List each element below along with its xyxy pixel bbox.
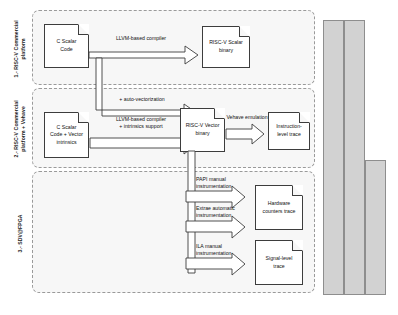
edge-label-extrae-automatic: Extrae automatic instrumentation <box>196 205 262 220</box>
document-corner-icon <box>299 112 310 123</box>
node-label: Hardware counters trace <box>261 200 298 215</box>
edge-label-ila-manual: ILA manual instrumentation <box>196 243 258 258</box>
document-corner-icon <box>78 112 89 123</box>
node-label: RISC-V Scalar binary <box>207 39 245 54</box>
edge-label-auto-vectorization: + auto-vectorization <box>96 96 188 103</box>
node-label: RISC-V Vector binary <box>184 122 222 137</box>
diagram-canvas: 1.- RISC-V Commercial platform 2.- RISC-… <box>0 0 398 315</box>
section-label-riscv-commercial-vehave: 2.- RISC-V Commercial platform + Vehave <box>13 96 27 162</box>
edge-label-llvm-intrinsics: LLVM-based compiler + intrinsics support <box>92 116 190 131</box>
node-c-scalar-code: C Scalar Code <box>44 24 89 68</box>
feedback-bar-hardware-architects: Feedback to hardware architects <box>365 160 386 295</box>
edge-label-vehave-emulation: Vehave emulation <box>222 114 272 121</box>
document-corner-icon <box>78 24 89 35</box>
node-instruction-level-trace: Instruction- level trace <box>268 112 310 150</box>
node-c-scalar-vector-code: C Scalar Code + Vector intrinsics <box>44 112 89 158</box>
node-label: Instruction- level trace <box>274 123 304 138</box>
node-hardware-counters-trace: Hardware counters trace <box>255 185 303 230</box>
node-label: C Scalar Code <box>55 38 79 53</box>
document-corner-icon <box>292 185 303 196</box>
section-label-sdv-fpga: 3.- SDV@FPGA <box>17 205 24 261</box>
document-corner-icon <box>292 240 303 251</box>
edge-label-papi-manual: PAPI manual instrumentation <box>196 176 258 191</box>
feedback-bar-compiler-developers: Feedback to compiler developers <box>344 20 365 295</box>
section-label-riscv-commercial: 1.- RISC-V Commercial platform <box>13 16 27 82</box>
node-label: C Scalar Code + Vector intrinsics <box>48 124 85 147</box>
node-riscv-scalar-binary: RISC-V Scalar binary <box>202 26 250 68</box>
edge-vehave-emulation-arrow <box>226 124 268 146</box>
feedback-bar-application-programmers: Feedback to application programmers <box>323 20 344 295</box>
node-signal-level-trace: Signal-level trace <box>255 240 303 285</box>
node-riscv-vector-binary: RISC-V Vector binary <box>180 108 225 152</box>
edge-label-llvm-compiler: LLVM-based compiler <box>96 35 186 42</box>
document-corner-icon <box>239 26 250 37</box>
node-label: Signal-level trace <box>264 255 295 270</box>
